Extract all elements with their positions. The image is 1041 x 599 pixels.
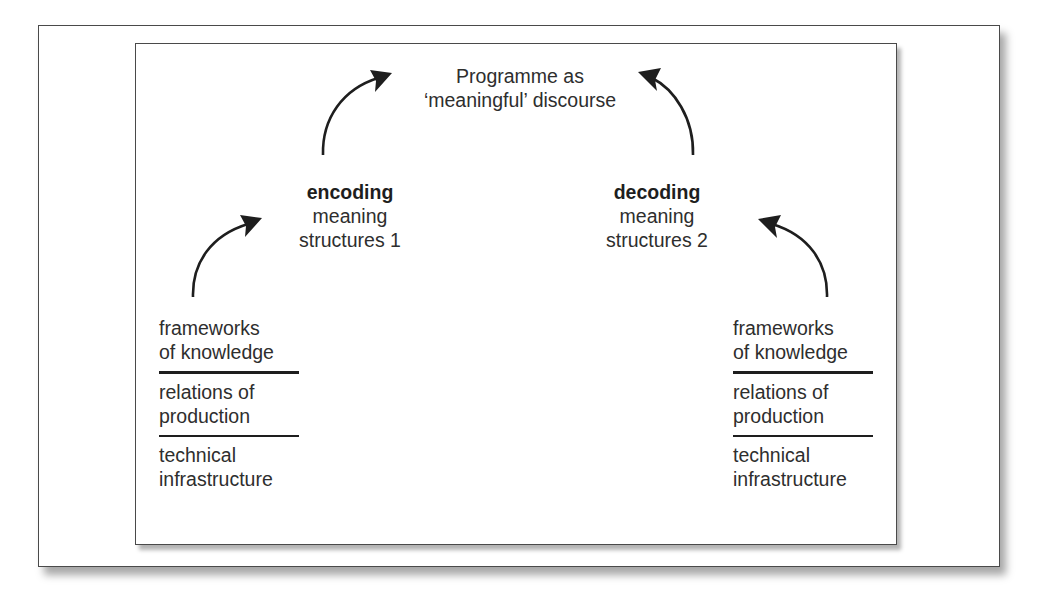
left-frameworks-line-2: of knowledge (159, 340, 299, 364)
right-frameworks-line-1: frameworks (733, 316, 873, 340)
decoding-node: decoding meaning structures 2 (577, 180, 737, 252)
decoding-title: decoding (577, 180, 737, 204)
left-technical-line-1: technical (159, 443, 299, 467)
right-divider-2 (733, 435, 873, 438)
programme-label: Programme as ‘meaningful’ discourse (410, 64, 630, 112)
encoding-line-1: meaning (270, 204, 430, 228)
left-relations: relations of production (159, 380, 299, 428)
right-technical: technical infrastructure (733, 443, 873, 491)
left-stack: frameworks of knowledge relations of pro… (159, 316, 299, 491)
left-divider-2 (159, 435, 299, 438)
right-frameworks: frameworks of knowledge (733, 316, 873, 364)
right-relations-line-2: production (733, 404, 873, 428)
left-technical: technical infrastructure (159, 443, 299, 491)
right-relations-line-1: relations of (733, 380, 873, 404)
right-stack: frameworks of knowledge relations of pro… (733, 316, 873, 491)
encoding-line-2: structures 1 (270, 228, 430, 252)
programme-line-2: ‘meaningful’ discourse (410, 88, 630, 112)
right-technical-line-1: technical (733, 443, 873, 467)
decoding-line-1: meaning (577, 204, 737, 228)
left-technical-line-2: infrastructure (159, 467, 299, 491)
right-relations: relations of production (733, 380, 873, 428)
encoding-node: encoding meaning structures 1 (270, 180, 430, 252)
decoding-line-2: structures 2 (577, 228, 737, 252)
programme-line-1: Programme as (410, 64, 630, 88)
left-relations-line-2: production (159, 404, 299, 428)
encoding-title: encoding (270, 180, 430, 204)
right-frameworks-line-2: of knowledge (733, 340, 873, 364)
left-frameworks-line-1: frameworks (159, 316, 299, 340)
right-divider-1 (733, 371, 873, 374)
left-divider-1 (159, 371, 299, 374)
left-relations-line-1: relations of (159, 380, 299, 404)
left-frameworks: frameworks of knowledge (159, 316, 299, 364)
right-technical-line-2: infrastructure (733, 467, 873, 491)
